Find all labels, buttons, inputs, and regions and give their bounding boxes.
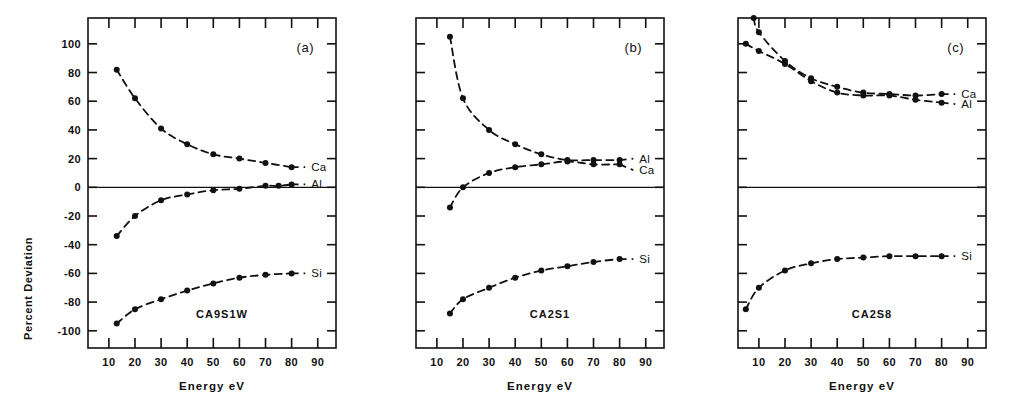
- plot-frame: [738, 18, 986, 348]
- data-point: [132, 306, 138, 312]
- data-point: [751, 15, 757, 21]
- x-axis-label: Energy eV: [507, 380, 573, 392]
- series-si: Si: [743, 250, 972, 312]
- data-point: [913, 97, 919, 103]
- data-point: [834, 84, 840, 90]
- series-ca: Ca: [447, 158, 655, 210]
- data-point: [263, 272, 269, 278]
- x-tick-label: 20: [128, 356, 141, 368]
- data-point: [210, 151, 216, 157]
- data-point: [538, 161, 544, 167]
- y-tick-label: 40: [68, 124, 81, 136]
- data-point: [460, 184, 466, 190]
- data-point: [860, 255, 866, 261]
- data-point: [538, 268, 544, 274]
- x-tick-label: 90: [961, 356, 974, 368]
- data-point: [263, 160, 269, 166]
- x-tick-label: 30: [483, 356, 496, 368]
- series-line: [450, 37, 620, 161]
- x-tick-label: 60: [883, 356, 896, 368]
- series-label-ca: Ca: [639, 164, 655, 176]
- x-tick-label: 90: [639, 356, 652, 368]
- x-tick-label: 70: [909, 356, 922, 368]
- x-axis-label: Energy eV: [179, 380, 245, 392]
- x-tick-label: 30: [155, 356, 168, 368]
- x-tick-label: 20: [778, 356, 791, 368]
- panel-a: 100806040200-20-40-60-80-100102030405060…: [40, 0, 360, 410]
- data-point: [743, 306, 749, 312]
- x-tick-label: 10: [752, 356, 765, 368]
- data-point: [591, 161, 597, 167]
- data-point: [834, 90, 840, 96]
- data-point: [236, 156, 242, 162]
- data-point: [236, 275, 242, 281]
- data-point: [808, 78, 814, 84]
- y-tick-label: 60: [68, 95, 81, 107]
- y-tick-label: 0: [74, 181, 81, 193]
- plot-a: 100806040200-20-40-60-80-100102030405060…: [40, 0, 360, 410]
- x-tick-label: 20: [456, 356, 469, 368]
- data-point: [886, 253, 892, 259]
- y-tick-label: 20: [68, 153, 81, 165]
- data-point: [236, 186, 242, 192]
- panel-id-label: (a): [297, 40, 314, 55]
- series-label-al: Al: [639, 153, 650, 165]
- data-point: [834, 256, 840, 262]
- panel-c: 102030405060708090Energy eV(c)CA2S8CaAlS…: [690, 0, 1010, 410]
- x-tick-label: 10: [102, 356, 115, 368]
- data-point: [276, 183, 282, 189]
- x-axis-label: Energy eV: [829, 380, 895, 392]
- plot-frame: [88, 18, 336, 348]
- x-tick-label: 60: [233, 356, 246, 368]
- series-label-ca: Ca: [311, 161, 327, 173]
- x-tick-label: 80: [613, 356, 626, 368]
- data-point: [913, 253, 919, 259]
- data-point: [564, 158, 570, 164]
- data-point: [263, 183, 269, 189]
- series-ca: Ca: [114, 67, 327, 174]
- data-point: [512, 141, 518, 147]
- data-point: [447, 204, 453, 210]
- series-al: Al: [447, 34, 650, 165]
- series-line: [450, 161, 620, 207]
- data-point: [184, 191, 190, 197]
- plot-frame: [416, 18, 664, 348]
- data-point: [886, 92, 892, 98]
- data-point: [158, 197, 164, 203]
- x-tick-label: 60: [561, 356, 574, 368]
- series-label-si: Si: [311, 267, 322, 279]
- series-al: Al: [743, 41, 972, 110]
- x-tick-label: 40: [181, 356, 194, 368]
- y-tick-label: 80: [68, 67, 81, 79]
- series-line: [746, 256, 942, 309]
- data-point: [564, 263, 570, 269]
- data-point: [860, 92, 866, 98]
- panel-id-label: (c): [947, 40, 964, 55]
- data-point: [210, 280, 216, 286]
- panel-b: 102030405060708090Energy eV(b)CA2S1AlCaS…: [368, 0, 688, 410]
- data-point: [132, 95, 138, 101]
- y-tick-label: -20: [64, 210, 81, 222]
- panel-id-label: (b): [625, 40, 642, 55]
- x-tick-label: 50: [857, 356, 870, 368]
- y-tick-label: -60: [64, 267, 81, 279]
- data-point: [486, 170, 492, 176]
- x-tick-label: 30: [805, 356, 818, 368]
- series-label-al: Al: [311, 178, 322, 190]
- data-point: [158, 125, 164, 131]
- x-tick-label: 50: [207, 356, 220, 368]
- data-point: [512, 164, 518, 170]
- data-point: [756, 48, 762, 54]
- y-tick-label: 100: [61, 38, 81, 50]
- data-point: [114, 321, 120, 327]
- series-label-si: Si: [639, 253, 650, 265]
- x-tick-label: 70: [587, 356, 600, 368]
- x-tick-label: 90: [311, 356, 324, 368]
- data-point: [512, 275, 518, 281]
- series-line: [117, 70, 292, 168]
- series-line: [117, 184, 292, 236]
- data-point: [782, 61, 788, 67]
- x-tick-label: 70: [259, 356, 272, 368]
- data-point: [743, 41, 749, 47]
- data-point: [184, 141, 190, 147]
